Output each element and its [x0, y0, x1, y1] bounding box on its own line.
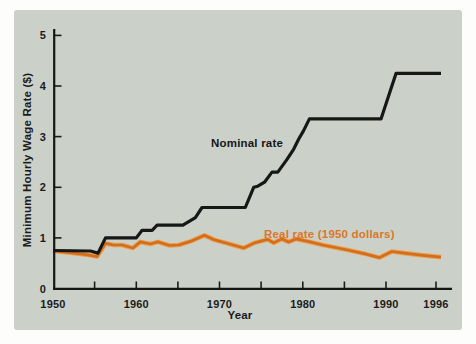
y-tick-label: 0: [40, 283, 46, 295]
x-tick-label: 1950: [40, 298, 65, 310]
figure: 012345195019601970198019901996 Minimum H…: [0, 0, 476, 344]
y-axis-title: Minimum Hourly Wage Rate ($): [21, 73, 33, 248]
x-tick-label: 1996: [423, 298, 448, 310]
y-tick-label: 3: [40, 131, 46, 143]
x-tick-label: 1970: [207, 298, 232, 310]
nominal-rate-label: Nominal rate: [211, 137, 283, 149]
real-rate-label: Real rate (1950 dollars): [264, 228, 395, 240]
wage-rate-chart: 012345195019601970198019901996 Minimum H…: [0, 0, 476, 344]
x-tick-label: 1960: [124, 298, 149, 310]
x-tick-label: 1980: [290, 298, 315, 310]
x-tick-label: 1990: [373, 298, 398, 310]
chart-panel: [14, 10, 462, 330]
y-tick-label: 1: [40, 232, 46, 244]
y-tick-label: 4: [40, 80, 47, 92]
y-tick-label: 2: [40, 181, 46, 193]
y-tick-label: 5: [40, 29, 46, 41]
x-axis-title: Year: [227, 309, 252, 321]
